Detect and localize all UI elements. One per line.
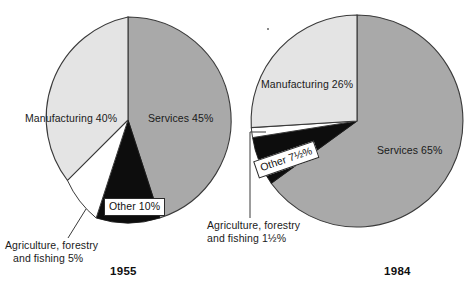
callout-1984-agriculture-line2: and fishing 1½% [207,232,286,244]
scan-speck [267,28,269,30]
label-1984-services: Services 65% [377,145,442,157]
leader-line-1955-agriculture [68,209,86,238]
label-1984-manufacturing: Manufacturing 26% [261,79,353,91]
pie-1984 [250,15,463,227]
label-1955-services: Services 45% [148,113,213,125]
label-1955-manufacturing: Manufacturing 40% [25,113,117,125]
callout-1955-agriculture-line2: and fishing 5% [13,252,83,265]
wedge-1984-manufacturing [251,15,357,128]
year-label-1984: 1984 [384,265,411,277]
callout-1955-agriculture: Agriculture, forestry and fishing 5% [5,239,98,265]
year-label-1955: 1955 [110,265,137,277]
callout-1984-agriculture-line1: Agriculture, forestry [207,219,300,231]
callout-1984-agriculture: Agriculture, forestry and fishing 1½% [207,219,300,245]
pie-chart-figure: Manufacturing 40% Services 45% Other 10%… [0,0,473,288]
label-1955-other: Other 10% [104,198,165,216]
callout-1955-agriculture-line1: Agriculture, forestry [5,239,98,251]
